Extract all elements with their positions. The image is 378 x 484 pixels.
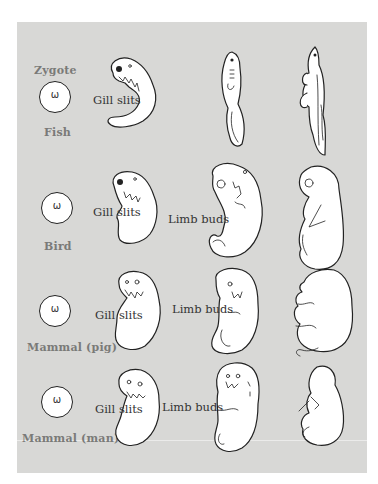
zygote-bird: ω bbox=[41, 192, 73, 224]
zygote-fish: ω bbox=[39, 81, 71, 113]
zygote-header-label: Zygote bbox=[34, 64, 77, 77]
zygote-nucleus-icon: ω bbox=[40, 89, 70, 100]
gill-slits-label-bird: Gill slits bbox=[93, 205, 141, 219]
bird-late-stage-icon bbox=[295, 165, 350, 275]
zygote-nucleus-icon: ω bbox=[42, 200, 72, 211]
gill-slits-label-human: Gill slits bbox=[95, 402, 143, 416]
organism-label-pig: Mammal (pig) bbox=[27, 341, 117, 354]
zygote-pig: ω bbox=[39, 295, 71, 327]
limb-buds-label-human: Limb buds bbox=[162, 400, 223, 414]
zygote-nucleus-icon: ω bbox=[40, 303, 70, 314]
organism-label-human: Mammal (man) bbox=[22, 432, 119, 445]
zygote-human: ω bbox=[41, 386, 73, 418]
fish-late-stage-icon bbox=[295, 45, 335, 160]
organism-label-bird: Bird bbox=[44, 240, 72, 253]
pig-late-stage-icon bbox=[290, 270, 360, 365]
organism-label-fish: Fish bbox=[44, 126, 71, 139]
gill-slits-label-fish: Gill slits bbox=[93, 93, 141, 107]
human-late-stage-icon bbox=[295, 365, 350, 450]
gill-slits-label-pig: Gill slits bbox=[95, 308, 143, 322]
limb-buds-label-bird: Limb buds bbox=[168, 212, 229, 226]
limb-buds-label-pig: Limb buds bbox=[172, 302, 233, 316]
fish-middle-stage-icon bbox=[218, 50, 248, 150]
zygote-nucleus-icon: ω bbox=[42, 394, 72, 405]
